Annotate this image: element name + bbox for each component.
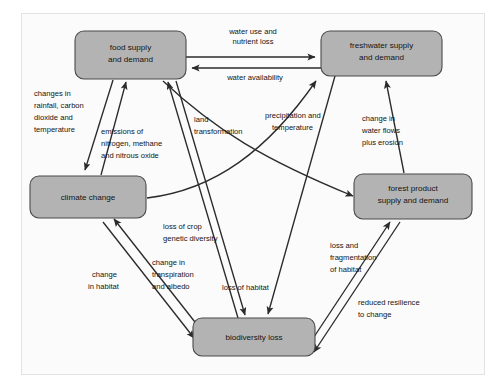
edge-label-climate-to-biodiversity: change in habitat [88, 270, 120, 291]
edge-label-line2: water flows [361, 126, 400, 135]
edge-label-line2: rainfall, carbon [34, 101, 84, 110]
node-forest-product-label-line1: forest product [388, 184, 438, 193]
edge-label-line2: genetic diversity [163, 234, 218, 243]
edge-label-line1: water availability [226, 73, 283, 82]
edge-label-freshwater-to-food: water availability [226, 73, 283, 82]
edge-label-line2: in habitat [88, 282, 120, 291]
edge-label-line2: fragmentation [330, 253, 376, 262]
edge-label-line3: of habitat [330, 265, 362, 274]
edge-label-line2: nitrogen, methane [101, 139, 162, 148]
node-climate-change-label: climate change [61, 193, 116, 202]
edge-label-biodiversity-to-climate: change in transpiration and albedo [152, 258, 194, 291]
edge-food-to-forest [163, 81, 353, 196]
edge-label-food-to-climate: changes in rainfall, carbon dioxide and … [34, 89, 84, 134]
node-food-supply-label-line1: food supply [110, 43, 152, 52]
edge-label-biodiversity-to-food: loss of crop genetic diversity [163, 222, 218, 243]
node-food-supply-and-demand[interactable]: food supply and demand [75, 31, 186, 79]
edge-label-line1: changes in [34, 89, 71, 98]
edge-label-line2: temperature [272, 123, 313, 132]
edge-label-line3: and nitrous oxide [101, 151, 159, 160]
edge-label-line1: loss and [330, 241, 358, 250]
edge-label-line3: and albedo [152, 282, 190, 291]
diagram-canvas: food supply and demand freshwater supply… [0, 0, 500, 392]
edge-label-line1: change in [362, 114, 395, 123]
edge-label-line1: land [194, 115, 208, 124]
node-biodiversity-loss-label: biodiversity loss [225, 333, 282, 342]
node-forest-product-supply-and-demand[interactable]: forest product supply and demand [354, 174, 472, 219]
edge-food-to-biodiversity [176, 81, 245, 315]
edge-label-food-to-biodiversity: loss of habitat [222, 283, 270, 292]
edge-label-biodiversity-to-forest: reduced resilience to change [358, 298, 420, 319]
edge-label-line2: nutrient loss [233, 37, 274, 46]
edge-label-line1: emissions of [101, 127, 144, 136]
edge-label-line2: transpiration [152, 270, 194, 279]
edge-label-forest-to-freshwater: change in water flows plus erosion [361, 114, 403, 147]
edge-label-climate-to-food: emissions of nitrogen, methane and nitro… [101, 127, 162, 160]
node-freshwater-supply-label-line1: freshwater supply [350, 41, 414, 50]
edge-label-line1: loss of habitat [222, 283, 270, 292]
edge-label-line4: temperature [34, 125, 75, 134]
node-forest-product-label-line2: supply and demand [378, 196, 449, 205]
edge-label-line1: reduced resilience [358, 298, 420, 307]
edge-label-line1: water use and [228, 27, 277, 36]
edge-label-line3: plus erosion [362, 138, 403, 147]
edge-label-food-to-freshwater: water use and nutrient loss [228, 27, 277, 46]
edge-label-line3: dioxide and [34, 113, 73, 122]
edge-label-line2: transformation [194, 127, 243, 136]
edge-label-line1: change in [152, 258, 185, 267]
node-climate-change[interactable]: climate change [30, 176, 146, 218]
ecosystem-feedback-diagram: food supply and demand freshwater supply… [0, 0, 500, 392]
node-food-supply-label-line2: and demand [108, 55, 153, 64]
node-biodiversity-loss[interactable]: biodiversity loss [193, 318, 315, 356]
edge-label-line1: change [92, 270, 117, 279]
edge-label-line1: precipitation and [265, 111, 321, 120]
edge-label-line1: loss of crop [163, 222, 202, 231]
node-freshwater-supply-label-line2: and demand [359, 53, 404, 62]
edge-label-line2: to change [358, 310, 391, 319]
node-freshwater-supply-and-demand[interactable]: freshwater supply and demand [321, 31, 442, 76]
edge-label-climate-to-freshwater: precipitation and temperature [265, 111, 321, 132]
